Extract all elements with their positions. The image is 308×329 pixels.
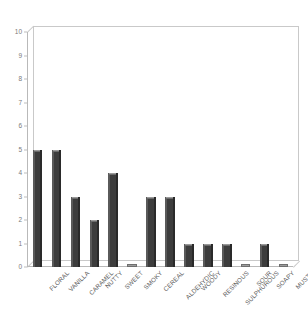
y-axis-tick-mark — [24, 102, 27, 103]
bar-top-cap — [166, 197, 174, 199]
x-axis-label-resinous: RESINOUS — [222, 270, 250, 298]
bar-slot — [260, 32, 270, 267]
bar-slot — [52, 32, 62, 267]
x-axis: FLORALVANILLACARAMELNUTTYSWEETSMOKYCEREA… — [28, 268, 293, 329]
x-axis-label-text: MUSTY — [294, 270, 308, 290]
plot-depth-edge-bottom-right — [293, 261, 300, 268]
y-axis-tick-mark — [24, 267, 27, 268]
y-axis-tick-label: 3 — [18, 193, 22, 200]
bar-chart: 012345678910 FLORALVANILLACARAMELNUTTYSW… — [0, 0, 308, 329]
bar-slot — [203, 32, 213, 267]
y-axis-tick-label: 7 — [18, 99, 22, 106]
y-axis-tick-label: 6 — [18, 123, 22, 130]
y-axis-tick-label: 1 — [18, 240, 22, 247]
bar-top-cap — [91, 220, 99, 222]
bar-top-cap — [109, 173, 117, 175]
bar-caramel[interactable] — [71, 197, 81, 268]
bar-aldehydic[interactable] — [165, 197, 175, 268]
y-axis-tick-label: 5 — [18, 146, 22, 153]
x-axis-label-cereal: CEREAL — [163, 270, 186, 293]
bar-slot — [108, 32, 118, 267]
y-axis-tick-label: 8 — [18, 76, 22, 83]
bar-top-cap — [147, 197, 155, 199]
bar-smoky[interactable] — [127, 264, 137, 267]
x-axis-label-musty: MUSTY — [294, 270, 308, 290]
y-axis-tick-label: 4 — [18, 170, 22, 177]
x-axis-label-text: RESINOUS — [222, 270, 250, 298]
plot-area — [28, 32, 293, 267]
y-axis-tick-mark — [24, 55, 27, 56]
bar-cereal[interactable] — [146, 197, 156, 268]
y-axis-tick-mark — [24, 173, 27, 174]
y-axis-tick-mark — [24, 149, 27, 150]
bar-woody[interactable] — [184, 244, 194, 268]
y-axis-tick-mark — [24, 79, 27, 80]
y-axis-tick-mark — [24, 196, 27, 197]
bar-top-cap — [223, 244, 231, 246]
bar-top-cap — [53, 150, 61, 152]
x-axis-label-text: SMOKY — [143, 270, 164, 291]
bar-soapy[interactable] — [260, 244, 270, 268]
bar-slot — [33, 32, 43, 267]
bar-sour[interactable] — [241, 264, 251, 267]
bar-sulphurous[interactable] — [222, 244, 232, 268]
y-axis: 012345678910 — [0, 32, 27, 267]
bar-slot — [146, 32, 156, 267]
y-axis-tick-label: 0 — [18, 264, 22, 271]
bar-nutty[interactable] — [90, 220, 100, 267]
y-axis-tick-mark — [24, 126, 27, 127]
bar-resinous[interactable] — [203, 244, 213, 268]
bar-top-cap — [204, 244, 212, 246]
bar-slot — [71, 32, 81, 267]
bar-slot — [241, 32, 251, 267]
bar-top-cap — [34, 150, 42, 152]
bar-slot — [222, 32, 232, 267]
x-axis-label-text: CEREAL — [163, 270, 186, 293]
bar-musty[interactable] — [279, 264, 289, 267]
bar-slot — [279, 32, 289, 267]
y-axis-tick-label: 2 — [18, 217, 22, 224]
bar-slot — [127, 32, 137, 267]
bar-sweet[interactable] — [108, 173, 118, 267]
y-axis-tick-mark — [24, 243, 27, 244]
y-axis-tick-label: 10 — [15, 29, 22, 36]
bar-top-cap — [261, 244, 269, 246]
bar-slot — [165, 32, 175, 267]
y-axis-tick-label: 9 — [18, 52, 22, 59]
x-axis-label-text: SWEET — [124, 270, 145, 291]
bar-slot — [90, 32, 100, 267]
bar-top-cap — [72, 197, 80, 199]
bar-slot — [184, 32, 194, 267]
y-axis-tick-mark — [24, 220, 27, 221]
bar-floral[interactable] — [33, 150, 43, 268]
x-axis-label-sweet: SWEET — [124, 270, 145, 291]
bar-top-cap — [185, 244, 193, 246]
y-axis-tick-mark — [24, 32, 27, 33]
bar-vanilla[interactable] — [52, 150, 62, 268]
x-axis-label-smoky: SMOKY — [143, 270, 164, 291]
